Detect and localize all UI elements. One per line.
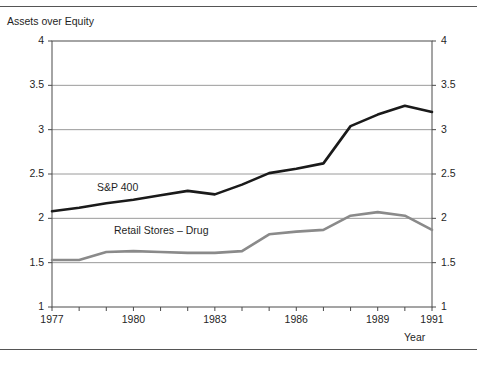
axis-tick-label: 1.5	[441, 256, 471, 268]
series-line	[52, 106, 432, 212]
axis-tick-label: 3	[441, 123, 471, 135]
plot-canvas	[0, 0, 477, 366]
axis-tick-label: 3.5	[441, 78, 471, 90]
axis-tick-label: 2.5	[441, 167, 471, 179]
axis-tick-label: 4	[441, 34, 471, 46]
axis-tick-label: 1	[14, 300, 44, 312]
axis-tick-label: 3.5	[14, 78, 44, 90]
axis-tick-label: 1991	[412, 313, 452, 325]
series-label-sp400: S&P 400	[97, 181, 138, 193]
axis-tick-label: 4	[14, 34, 44, 46]
axis-tick-label: 3	[14, 123, 44, 135]
axis-tick-label: 1980	[113, 313, 153, 325]
axis-tick-label: 1977	[32, 313, 72, 325]
axis-tick-label: 1989	[358, 313, 398, 325]
axis-tick-label: 1.5	[14, 256, 44, 268]
axis-tick-label: 2	[14, 211, 44, 223]
axis-tick-label: 1983	[195, 313, 235, 325]
axis-tick-label: 2	[441, 211, 471, 223]
gridlines-group	[52, 85, 432, 262]
chart-figure: Assets over Equity Year 11.522.533.54 11…	[0, 0, 477, 366]
axis-tick-label: 1986	[276, 313, 316, 325]
axis-tick-label: 2.5	[14, 167, 44, 179]
series-label-retail: Retail Stores – Drug	[114, 224, 209, 236]
series-line	[52, 212, 432, 260]
x-tick-marks	[52, 307, 432, 311]
axis-tick-label: 1	[441, 300, 471, 312]
